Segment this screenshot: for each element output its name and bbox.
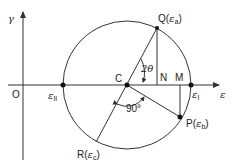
y-axis-label: γ [8, 13, 14, 24]
mohr-circle-diagram: γ O ε C N M 2θ 90° εII εI Q(εa) P(εb) R(… [0, 0, 236, 166]
m-label: M [175, 72, 183, 83]
point-e1 [189, 83, 194, 88]
r-label: R(εc) [77, 149, 100, 161]
e1-label: εI [192, 89, 199, 101]
point-p [178, 115, 183, 120]
q-label: Q(εa) [158, 13, 182, 25]
origin-label: O [12, 89, 20, 100]
x-axis-label: ε [220, 89, 225, 100]
right-angle-label: 90° [126, 103, 141, 114]
center-label: C [115, 73, 122, 84]
p-label: P(εb) [186, 118, 209, 130]
point-q [155, 26, 159, 30]
point-e2 [61, 83, 66, 88]
two-theta-label: 2θ [140, 63, 153, 74]
center-point-c [125, 83, 130, 88]
n-label: N [160, 72, 167, 83]
e2-label: εII [48, 90, 57, 102]
